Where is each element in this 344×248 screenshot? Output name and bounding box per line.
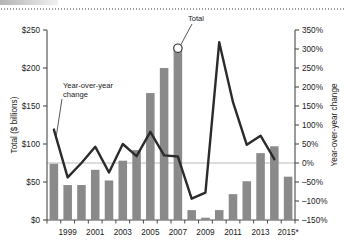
- right-tick-label: 0%: [302, 159, 314, 168]
- x-tick-label: 2013: [251, 228, 270, 237]
- right-tick-label: 100%: [302, 121, 323, 130]
- bar: [284, 177, 293, 220]
- left-tick-label: $100: [22, 140, 41, 149]
- x-tick-label: 1999: [59, 228, 78, 237]
- bar: [243, 181, 252, 220]
- bar: [105, 180, 114, 220]
- right-tick-label: 350%: [302, 26, 323, 35]
- right-tick-label: 250%: [302, 64, 323, 73]
- chart-figure: $0$50$100$150$200$250 –150%–100%–50%0%50…: [0, 0, 344, 248]
- left-axis-title: Total ($ billions): [10, 96, 19, 153]
- bar: [63, 185, 72, 220]
- x-tick-label: 2007: [169, 228, 188, 237]
- bar: [174, 47, 183, 220]
- left-tick-label: $50: [26, 178, 40, 187]
- dotted-rule-divider: [0, 8, 344, 10]
- bar: [77, 185, 86, 220]
- bar: [229, 194, 238, 220]
- x-tick-label: 2011: [224, 228, 242, 237]
- right-tick-label: –50%: [302, 178, 323, 187]
- page-edge-artifact: [0, 0, 58, 5]
- yoy-annotation-label-line1: Year-over-year: [63, 81, 113, 90]
- right-tick-label: 200%: [302, 83, 323, 92]
- bar: [187, 210, 196, 220]
- bar: [201, 218, 210, 220]
- bar: [50, 164, 59, 220]
- bar: [146, 93, 155, 220]
- left-tick-label: $250: [22, 26, 41, 35]
- total-annotation-label: Total: [188, 14, 204, 23]
- right-tick-label: 50%: [302, 140, 318, 149]
- right-tick-label: 150%: [302, 102, 323, 111]
- left-axis-ticks: $0$50$100$150$200$250: [22, 26, 47, 225]
- bar: [256, 153, 265, 220]
- x-tick-label: 2015*: [277, 228, 299, 237]
- bar: [215, 210, 224, 220]
- bar: [91, 170, 100, 220]
- left-tick-label: $0: [31, 216, 41, 225]
- right-tick-label: –100%: [302, 197, 328, 206]
- right-axis-ticks: –150%–100%–50%0%50%100%150%200%250%300%3…: [295, 26, 328, 225]
- right-tick-label: –150%: [302, 216, 328, 225]
- left-tick-label: $150: [22, 102, 41, 111]
- right-axis-title: Year-over-year change: [330, 83, 339, 166]
- bar: [119, 161, 128, 220]
- combo-bar-line-chart: $0$50$100$150$200$250 –150%–100%–50%0%50…: [0, 0, 344, 248]
- x-tick-label: 2005: [141, 228, 160, 237]
- right-tick-label: 300%: [302, 45, 323, 54]
- bar: [160, 68, 169, 220]
- left-tick-label: $200: [22, 64, 41, 73]
- x-axis-ticks: 199920012003200520072009201120132015*: [47, 220, 300, 237]
- x-tick-label: 2003: [114, 228, 133, 237]
- yoy-annotation-label-line2: change: [63, 90, 88, 99]
- bar: [132, 150, 141, 220]
- x-tick-label: 2001: [86, 228, 105, 237]
- x-tick-label: 2009: [196, 228, 215, 237]
- total-annotation: Total: [188, 14, 204, 23]
- total-callout-marker: [174, 44, 182, 52]
